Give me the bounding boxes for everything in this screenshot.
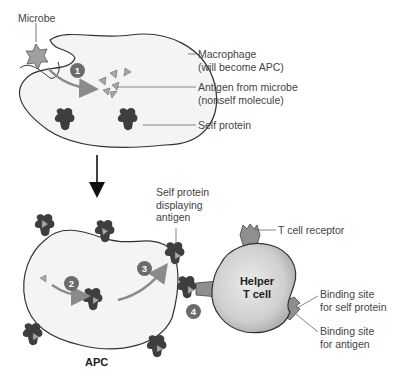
label-microbe: Microbe — [18, 12, 55, 25]
macrophage — [20, 34, 217, 147]
apc-cell — [24, 230, 178, 349]
step-badge-1: 1 — [70, 63, 85, 78]
microbe-icon — [26, 23, 48, 69]
label-binding-site-antigen: Binding site for antigen — [320, 325, 374, 350]
label-macrophage: Macrophage (will become APC) — [198, 48, 284, 73]
label-helper-t-cell: Helper T cell — [232, 275, 282, 301]
step-badge-4: 4 — [186, 304, 201, 319]
label-self-protein: Self protein — [198, 119, 251, 132]
step-badge-2: 2 — [64, 276, 79, 291]
label-self-protein-displaying-antigen: Self protein displaying antigen — [156, 186, 209, 224]
label-antigen: Antigen from microbe (nonself molecule) — [198, 81, 298, 106]
apc-diagram: 1 2 3 4 Microbe Macrophage (will become … — [0, 0, 398, 379]
label-apc: APC — [85, 356, 108, 369]
label-t-cell-receptor: T cell receptor — [278, 224, 344, 237]
label-binding-site-self: Binding site for self protein — [320, 288, 387, 313]
step-badge-3: 3 — [137, 261, 152, 276]
